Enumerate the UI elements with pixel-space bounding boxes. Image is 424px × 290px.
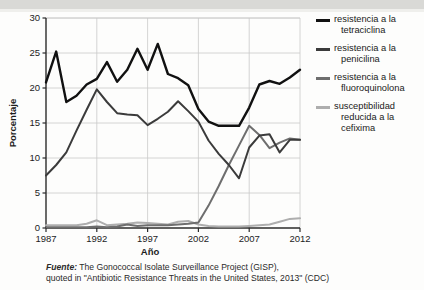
x-tick-label: 2002 — [188, 233, 209, 244]
x-tick-label: 1992 — [86, 233, 107, 244]
legend-label-line-3: cefixima — [334, 123, 395, 134]
legend-label-line-2: fluoroquinolona — [334, 83, 405, 94]
y-tick-label: 5 — [35, 187, 40, 198]
x-axis-label: Año — [141, 246, 159, 257]
legend-line-swatch — [316, 19, 330, 22]
legend-item-label: resistencia a lapenicilina — [334, 43, 396, 65]
caption-source-word: Fuente: — [46, 262, 77, 272]
legend-item: resistencia a latetraciclina — [316, 14, 422, 36]
chart-legend: resistencia a latetraciclinaresistencia … — [316, 14, 422, 141]
figure-caption: Fuente: The Gonococcal Isolate Surveilla… — [46, 262, 406, 284]
legend-label-line-1: resistencia a la — [334, 43, 396, 53]
legend-item: resistencia a lapenicilina — [316, 43, 422, 65]
y-tick-label: 20 — [29, 82, 40, 93]
legend-item: susceptibilidadreducida a lacefixima — [316, 101, 422, 135]
data-series — [46, 44, 300, 227]
legend-label-line-1: resistencia a la — [334, 72, 396, 82]
caption-line-1: The Gonococcal Isolate Surveillance Proj… — [77, 262, 279, 272]
y-axis-label: Porcentaje — [7, 99, 18, 148]
x-tick-label: 2012 — [289, 233, 310, 244]
legend-label-line-1: susceptibilidad — [334, 101, 395, 111]
y-axis-ticks: 051015202530 — [29, 12, 46, 233]
legend-line-swatch — [316, 48, 330, 51]
legend-item-label: susceptibilidadreducida a lacefixima — [334, 101, 395, 135]
series-line — [46, 126, 300, 228]
legend-label-line-2: tetraciclina — [334, 25, 396, 36]
x-tick-label: 2007 — [239, 233, 260, 244]
legend-label-line-2: penicilina — [334, 54, 396, 65]
x-axis-ticks: 198719921997200220072012 — [35, 228, 310, 244]
x-axis-label-wrap: Año — [0, 246, 300, 257]
y-tick-label: 25 — [29, 47, 40, 58]
legend-item-label: resistencia a latetraciclina — [334, 14, 396, 36]
series-line — [46, 89, 300, 178]
legend-label-line-2: reducida a la — [334, 112, 395, 123]
y-tick-label: 30 — [29, 12, 40, 23]
y-tick-label: 15 — [29, 117, 40, 128]
legend-item: resistencia a lafluoroquinolona — [316, 72, 422, 94]
x-tick-label: 1987 — [35, 233, 56, 244]
y-tick-label: 0 — [35, 222, 40, 233]
x-tick-label: 1997 — [137, 233, 158, 244]
legend-item-label: resistencia a lafluoroquinolona — [334, 72, 405, 94]
legend-line-swatch — [316, 77, 330, 80]
legend-label-line-1: resistencia a la — [334, 14, 396, 24]
y-tick-label: 10 — [29, 152, 40, 163]
caption-line-2: quoted in "Antibiotic Resistance Threats… — [46, 273, 329, 283]
figure-container: 051015202530 198719921997200220072012 Po… — [0, 0, 424, 290]
gridlines — [46, 18, 300, 228]
top-gray-band — [0, 0, 424, 9]
legend-line-swatch — [316, 106, 330, 109]
